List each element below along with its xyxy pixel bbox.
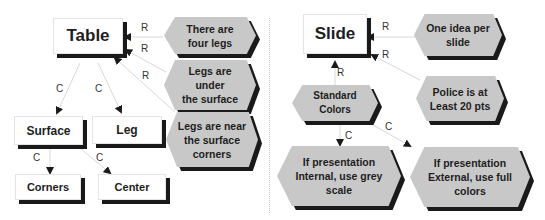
edge-label-c: C [56,83,63,94]
node-corners: Corners [15,174,81,200]
diagram-canvas: R R R C C C C R R R C C Table Surface Le… [0,0,545,220]
edge-label-r: R [382,21,389,32]
rule-legs-under-surface: Legs are under the surface [164,60,256,110]
node-standard-colors: Standard Colors [292,85,378,121]
edge-label-r: R [141,22,148,33]
rule-legs-near-corners: Legs are near the surface corners [166,112,258,167]
edge-label-r: R [142,70,149,81]
edge-label-c: C [33,152,40,163]
edge-label-r: R [382,49,389,60]
node-center: Center [98,174,166,200]
divider [269,18,271,213]
edge-label-r: R [141,43,148,54]
rule-one-idea: One idea per slide [414,14,502,56]
node-leg: Leg [92,116,162,144]
edge-label-c: C [95,83,102,94]
edge-label-c: C [96,152,103,163]
edge-label-c: C [345,130,352,141]
node-internal-grey: If presentation Internal, use grey scale [277,146,401,206]
node-table: Table [53,18,123,54]
node-slide: Slide [303,14,367,54]
node-external-colors: If presentation External, use full color… [410,147,530,207]
rule-font-size: Police is at Least 20 pts [416,76,504,121]
rule-four-legs: There are four legs [164,17,256,54]
node-surface: Surface [14,116,83,145]
edge-label-c: C [385,121,392,132]
edge-label-r: R [337,67,344,78]
